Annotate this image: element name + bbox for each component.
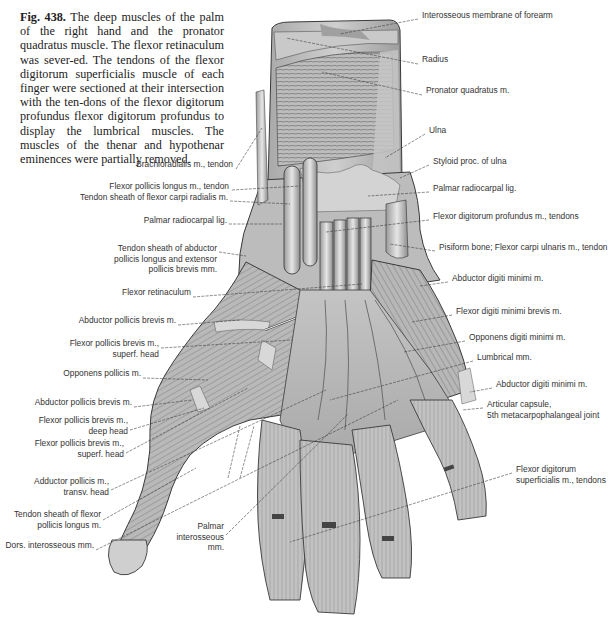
forearm (268, 20, 402, 185)
fingers (258, 400, 487, 614)
anatomy-label: Brachioradialis m., tendon (136, 159, 233, 170)
anatomy-label: Interosseous membrane of forearm (422, 10, 553, 21)
anatomy-label: Adductor pollicis m.,transv. head (34, 476, 109, 497)
anatomy-label: Abductor digiti minimi m. (496, 379, 587, 390)
anatomy-label: Flexor retinaculum (122, 287, 191, 298)
anatomy-label: Articular capsule,5th metacarpophalangea… (487, 399, 599, 420)
anatomy-label: Dors. interosseous mm. (6, 540, 94, 551)
anatomical-figure: Fig. 438. The deep muscles of the palm o… (0, 0, 613, 625)
anatomy-label: Pronator quadratus m. (426, 85, 509, 96)
anatomy-label: Abductor pollicis brevis m. (35, 397, 132, 408)
anatomy-label: Flexor digiti minimi brevis m. (456, 306, 562, 317)
anatomy-label: Abductor pollicis brevis m. (79, 315, 176, 326)
anatomy-label: Flexor pollicis brevis m.,superf. head (35, 438, 124, 459)
anatomy-label: Abductor digiti minimi m. (452, 273, 543, 284)
anatomy-label: Flexor pollicis longus m., tendon (109, 181, 229, 192)
anatomy-label: Flexor pollicis brevis m.,superf. head (70, 338, 159, 359)
anatomy-label: Tendon sheath of flexor carpi radialis m… (80, 192, 228, 203)
anatomy-label: Flexor digitorum profundus m., tendons (433, 211, 579, 222)
anatomy-label: Styloid proc. of ulna (433, 156, 507, 167)
anatomy-label: Opponens pollicis m. (63, 368, 141, 379)
caption-text: The deep muscles of the palm of the righ… (20, 10, 224, 166)
anatomy-label: Tendon sheath of flexorpollicis longus m… (14, 509, 101, 530)
figure-caption: Fig. 438. The deep muscles of the palm o… (20, 10, 224, 166)
figure-number: Fig. 438. (20, 10, 66, 24)
anatomy-label: Ulna (429, 125, 446, 136)
anatomy-label: Radius (422, 54, 448, 65)
anatomy-label: Opponens digiti minimi m. (469, 332, 565, 343)
anatomy-label: Pisiform bone; Flexor carpi ulnaris m., … (439, 242, 608, 253)
anatomy-label: Palmar radiocarpal lig. (433, 183, 516, 194)
anatomy-label: Flexor pollicis brevis m.,deep head (39, 415, 128, 436)
anatomy-label: Lumbrical mm. (477, 352, 532, 363)
anatomy-label: Flexor digitorumsuperficialis m., tendon… (516, 464, 606, 485)
anatomy-label: Tendon sheath of abductorpollicis longus… (114, 243, 217, 275)
anatomy-label: Palmarinterosseousmm. (177, 521, 225, 553)
anatomy-label: Palmar radiocarpal lig. (144, 215, 227, 226)
